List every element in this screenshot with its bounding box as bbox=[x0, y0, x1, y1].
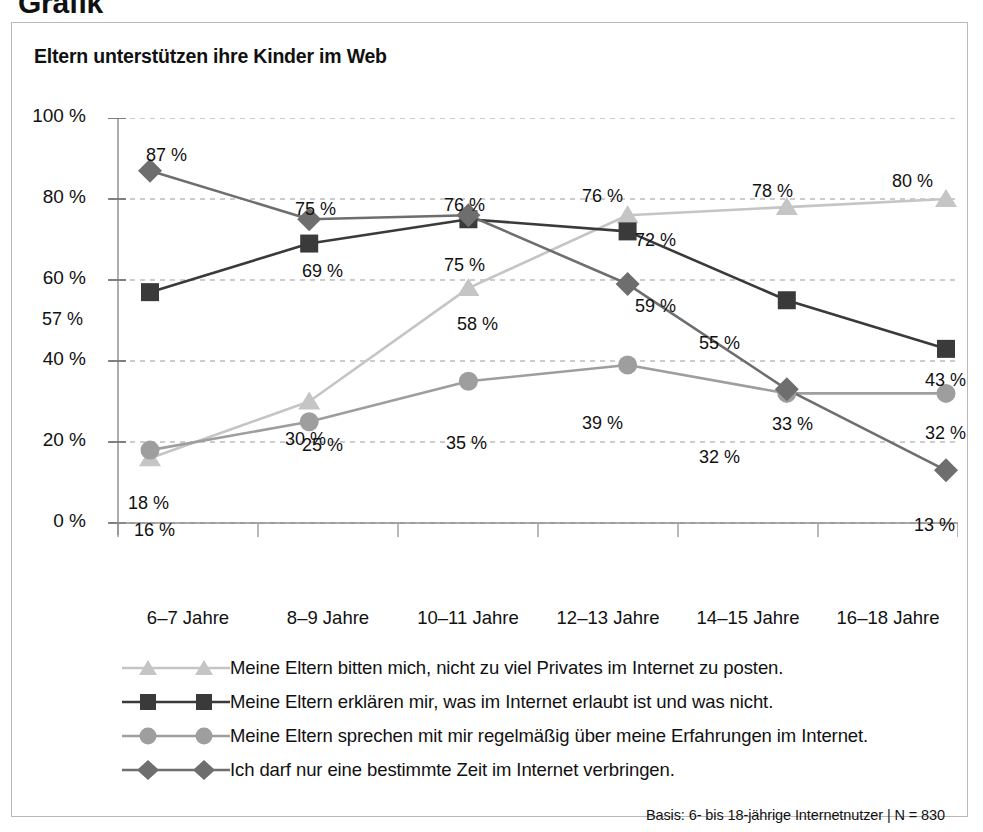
data-point-label: 75 % bbox=[295, 199, 336, 220]
x-axis-tick-label: 8–9 Jahre bbox=[248, 607, 408, 629]
data-point-label: 59 % bbox=[635, 296, 676, 317]
data-point-label: 30 % bbox=[285, 429, 326, 450]
page-title: Grafik bbox=[18, 0, 103, 20]
legend-label: Meine Eltern sprechen mit mir regelmäßig… bbox=[230, 725, 868, 747]
legend-marker-diamond bbox=[122, 758, 230, 782]
legend-item[interactable]: Ich darf nur eine bestimmte Zeit im Inte… bbox=[122, 755, 962, 784]
data-point-label: 76 % bbox=[582, 186, 623, 207]
data-point-label: 32 % bbox=[699, 447, 740, 468]
y-axis-tick-label: 80 % bbox=[12, 186, 86, 208]
plot-area bbox=[102, 118, 958, 588]
legend-item[interactable]: Meine Eltern sprechen mit mir regelmäßig… bbox=[122, 721, 962, 750]
x-axis-tick-label: 12–13 Jahre bbox=[528, 607, 688, 629]
legend-label: Ich darf nur eine bestimmte Zeit im Inte… bbox=[230, 759, 675, 781]
data-point-label: 76 % bbox=[444, 195, 485, 216]
data-point-label: 87 % bbox=[146, 145, 187, 166]
data-point-label: 43 % bbox=[925, 370, 966, 391]
y-axis-tick-label: 100 % bbox=[12, 105, 86, 127]
x-axis-tick-label: 10–11 Jahre bbox=[388, 607, 548, 629]
y-axis-tick-label: 60 % bbox=[12, 267, 86, 289]
data-point-label: 18 % bbox=[128, 493, 169, 514]
x-axis-tick-label: 14–15 Jahre bbox=[668, 607, 828, 629]
data-point-label: 78 % bbox=[752, 181, 793, 202]
legend-item[interactable]: Meine Eltern erklären mir, was im Intern… bbox=[122, 687, 962, 716]
chart-card: Eltern unterstützen ihre Kinder im Web 0… bbox=[11, 22, 968, 817]
y-axis-tick-label: 40 % bbox=[12, 348, 86, 370]
line-chart-svg bbox=[102, 118, 958, 588]
data-point-label: 16 % bbox=[134, 520, 175, 541]
data-point-label: 57 % bbox=[42, 309, 83, 330]
data-point-label: 35 % bbox=[446, 433, 487, 454]
chart-page: Grafik Eltern unterstützen ihre Kinder i… bbox=[0, 0, 983, 832]
data-point-label: 75 % bbox=[444, 255, 485, 276]
chart-footnote: Basis: 6- bis 18-jährige Internetnutzer … bbox=[646, 807, 945, 823]
data-point-label: 80 % bbox=[892, 171, 933, 192]
legend-marker-circle bbox=[122, 724, 230, 748]
data-point-label: 33 % bbox=[772, 414, 813, 435]
data-point-label: 39 % bbox=[582, 413, 623, 434]
legend-marker-square bbox=[122, 690, 230, 714]
chart-title: Eltern unterstützen ihre Kinder im Web bbox=[34, 45, 387, 68]
legend-label: Meine Eltern erklären mir, was im Intern… bbox=[230, 691, 773, 713]
data-point-label: 72 % bbox=[635, 230, 676, 251]
y-axis-tick-label: 0 % bbox=[12, 510, 86, 532]
data-point-label: 58 % bbox=[457, 314, 498, 335]
y-axis-tick-label: 20 % bbox=[12, 429, 86, 451]
data-point-label: 55 % bbox=[699, 333, 740, 354]
data-point-label: 13 % bbox=[914, 515, 955, 536]
legend-marker-triangle bbox=[122, 656, 230, 680]
chart-legend: Meine Eltern bitten mich, nicht zu viel … bbox=[122, 653, 962, 789]
x-axis-tick-label: 16–18 Jahre bbox=[808, 607, 968, 629]
legend-item[interactable]: Meine Eltern bitten mich, nicht zu viel … bbox=[122, 653, 962, 682]
x-axis-tick-label: 6–7 Jahre bbox=[108, 607, 268, 629]
data-point-label: 69 % bbox=[302, 261, 343, 282]
data-point-label: 32 % bbox=[925, 423, 966, 444]
legend-label: Meine Eltern bitten mich, nicht zu viel … bbox=[230, 657, 783, 679]
